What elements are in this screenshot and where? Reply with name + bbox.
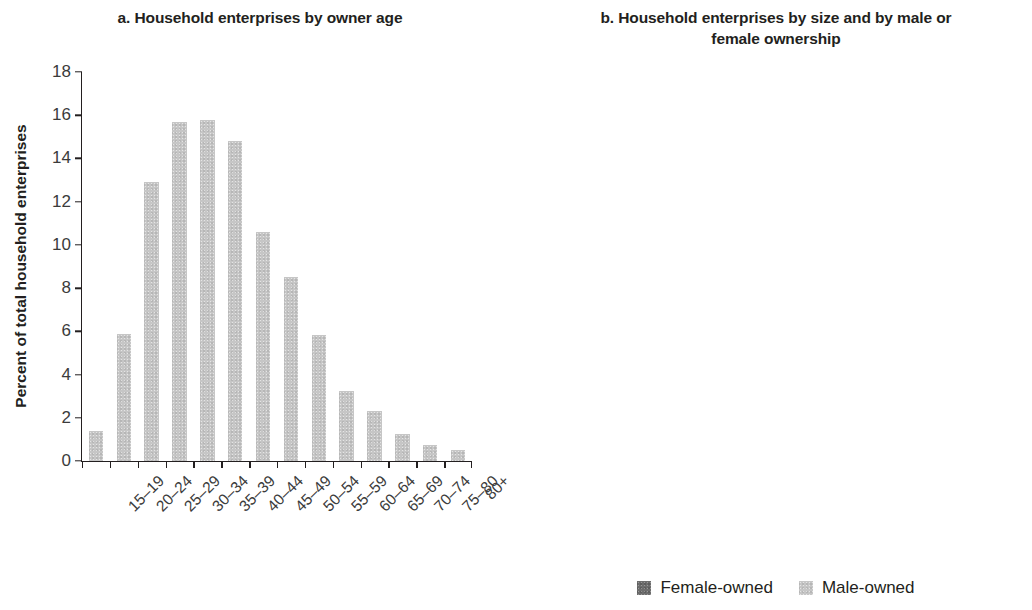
x-axis-tick: [305, 461, 306, 468]
bar: [89, 431, 103, 461]
bar: [256, 232, 270, 461]
bar: [117, 334, 131, 462]
y-axis-tick: [75, 460, 82, 461]
y-axis-tick: [75, 71, 82, 72]
x-axis-tick: [333, 461, 334, 468]
x-axis-tick: [416, 461, 417, 468]
x-axis-tick: [221, 461, 222, 468]
x-axis-tick: [82, 461, 83, 468]
legend-item: Male-owned: [799, 578, 915, 598]
y-axis-tick: [75, 158, 82, 159]
bar: [339, 391, 353, 461]
bar: [367, 411, 381, 461]
y-axis-tick: [75, 115, 82, 116]
y-axis-tick-label: 8: [62, 278, 71, 298]
y-axis-tick-label: 6: [62, 321, 71, 341]
panel-b-title: b. Household enterprises by size and by …: [520, 8, 1032, 50]
bar: [228, 141, 242, 461]
y-axis-tick: [75, 287, 82, 288]
x-axis-tick: [361, 461, 362, 468]
bar: [395, 434, 409, 461]
panel-a-y-axis-line: [81, 72, 82, 461]
y-axis-tick-label: 12: [52, 192, 71, 212]
figure: a. Household enterprises by owner age Pe…: [0, 0, 1032, 610]
x-axis-tick: [444, 461, 445, 468]
panel-a-y-axis-title-text: Percent of total household enterprises: [12, 124, 30, 407]
x-axis-tick: [388, 461, 389, 468]
panel-b: b. Household enterprises by size and by …: [520, 0, 1032, 610]
y-axis-tick-label: 10: [52, 235, 71, 255]
panel-a-y-axis-title: Percent of total household enterprises: [10, 72, 32, 461]
y-axis-tick-label: 16: [52, 105, 71, 125]
bar: [144, 182, 158, 461]
legend-label: Female-owned: [660, 578, 772, 598]
y-axis-tick-label: 4: [62, 365, 71, 385]
bar: [200, 120, 214, 461]
y-axis-tick: [75, 201, 82, 202]
panel-a-plot-area: 02468101214161815–1920–2425–2930–3435–39…: [82, 72, 472, 461]
legend-label: Male-owned: [822, 578, 915, 598]
bar: [451, 450, 465, 461]
x-axis-tick: [110, 461, 111, 468]
bar: [172, 122, 186, 461]
legend-swatch-icon: [637, 581, 651, 595]
y-axis-tick: [75, 417, 82, 418]
bar: [312, 335, 326, 461]
y-axis-tick: [75, 244, 82, 245]
bar: [284, 277, 298, 461]
panel-a: a. Household enterprises by owner age Pe…: [0, 0, 520, 610]
y-axis-tick: [75, 374, 82, 375]
x-axis-tick: [249, 461, 250, 468]
x-axis-tick: [138, 461, 139, 468]
y-axis-tick-label: 14: [52, 148, 71, 168]
x-axis-tick: [277, 461, 278, 468]
x-axis-tick: [193, 461, 194, 468]
y-axis-tick: [75, 331, 82, 332]
legend-item: Female-owned: [637, 578, 772, 598]
x-axis-tick: [166, 461, 167, 468]
bar: [423, 445, 437, 461]
panel-a-title: a. Household enterprises by owner age: [0, 8, 520, 29]
y-axis-tick-label: 2: [62, 408, 71, 428]
x-axis-tick: [471, 461, 472, 468]
legend: Female-ownedMale-owned: [520, 578, 1032, 598]
y-axis-tick-label: 18: [52, 62, 71, 82]
legend-swatch-icon: [799, 581, 813, 595]
y-axis-tick-label: 0: [62, 451, 71, 471]
